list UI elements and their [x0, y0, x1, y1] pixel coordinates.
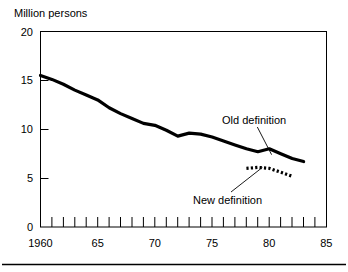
x-tick-labels: 1960 65 70 75 80 85	[28, 237, 332, 249]
plot-frame	[41, 32, 327, 228]
y-axis-title: Million persons	[14, 7, 88, 19]
chart-figure: Million persons 20 15 10 5 0	[0, 0, 348, 272]
x-tick-label-1960: 1960	[28, 237, 52, 249]
x-tick-label-1980: 80	[263, 237, 275, 249]
y-tick-labels: 20 15 10 5 0	[21, 26, 33, 233]
x-tick-label-1985: 85	[320, 237, 332, 249]
million-persons-line-chart: Million persons 20 15 10 5 0	[0, 0, 348, 272]
y-tick-label-0: 0	[27, 221, 33, 233]
y-tick-label-20: 20	[21, 26, 33, 38]
y-tick-label-5: 5	[27, 172, 33, 184]
y-tick-label-15: 15	[21, 74, 33, 86]
x-tick-label-1965: 65	[92, 237, 104, 249]
y-tick-label-10: 10	[21, 123, 33, 135]
x-tick-label-1975: 75	[206, 237, 218, 249]
annotation-label-old-definition: Old definition	[222, 114, 286, 126]
annotation-label-new-definition: New definition	[193, 194, 262, 206]
x-tick-label-1970: 70	[149, 237, 161, 249]
